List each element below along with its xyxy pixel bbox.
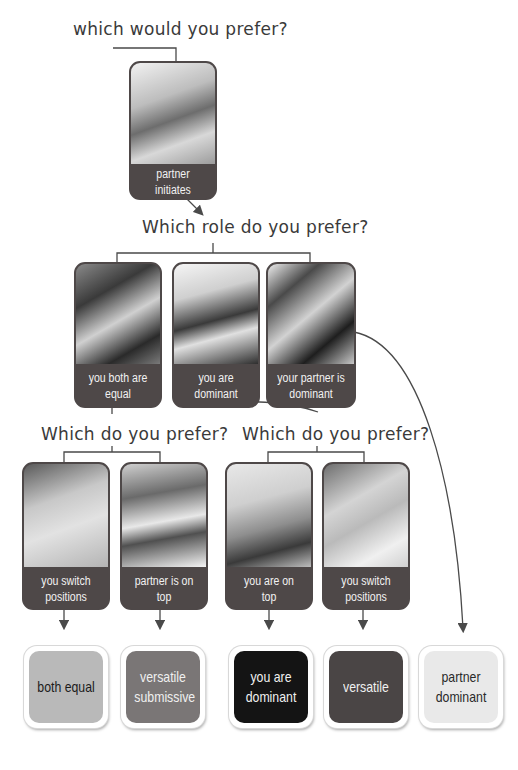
card-label: you are on top — [232, 569, 306, 608]
couple-embrace-photo — [131, 63, 215, 164]
card-label: you both are equal — [81, 366, 155, 406]
couple-smiling-photo — [24, 464, 108, 567]
question-which-would-you-prefer: which would you prefer? — [73, 19, 288, 39]
question-which-do-you-prefer-left: Which do you prefer? — [41, 424, 228, 444]
couple-embrace-photo — [76, 264, 160, 364]
couple-kissing-photo — [324, 464, 408, 567]
result-versatile-submissive[interactable]: versatile submissive — [121, 646, 205, 728]
card-partner-initiates[interactable]: partner initiates — [129, 61, 217, 200]
card-partner-is-on-top[interactable]: partner is on top — [120, 462, 208, 610]
result-versatile[interactable]: versatile — [324, 646, 408, 728]
result-you-are-dominant[interactable]: you are dominant — [229, 646, 313, 728]
result-partner-dominant[interactable]: partner dominant — [419, 646, 503, 728]
question-which-do-you-prefer-right: Which do you prefer? — [242, 424, 429, 444]
card-you-switch-positions-right[interactable]: you switch positions — [322, 462, 410, 610]
result-label: both equal — [37, 677, 94, 697]
card-you-both-are-equal[interactable]: you both are equal — [74, 262, 162, 408]
card-label: you switch positions — [29, 569, 103, 608]
card-label: you are dominant — [179, 366, 253, 406]
card-your-partner-is-dominant[interactable]: your partner is dominant — [266, 262, 356, 408]
result-label: versatile submissive — [134, 667, 191, 707]
card-label: partner initiates — [136, 165, 210, 198]
card-label: partner is on top — [127, 569, 201, 608]
result-both-equal[interactable]: both equal — [24, 646, 108, 728]
woman-over-man-photo — [174, 264, 258, 364]
woman-over-man-photo — [227, 464, 311, 567]
card-you-are-dominant[interactable]: you are dominant — [172, 262, 260, 408]
card-you-are-on-top[interactable]: you are on top — [225, 462, 313, 610]
result-label: partner dominant — [433, 667, 489, 707]
question-which-role: Which role do you prefer? — [142, 217, 369, 237]
card-you-switch-positions-left[interactable]: you switch positions — [22, 462, 110, 610]
result-label: you are dominant — [243, 667, 299, 707]
man-behind-woman-photo — [268, 264, 354, 364]
card-label: you switch positions — [329, 569, 403, 608]
result-label: versatile — [343, 677, 389, 697]
man-over-woman-photo — [122, 464, 206, 567]
card-label: your partner is dominant — [273, 366, 349, 406]
